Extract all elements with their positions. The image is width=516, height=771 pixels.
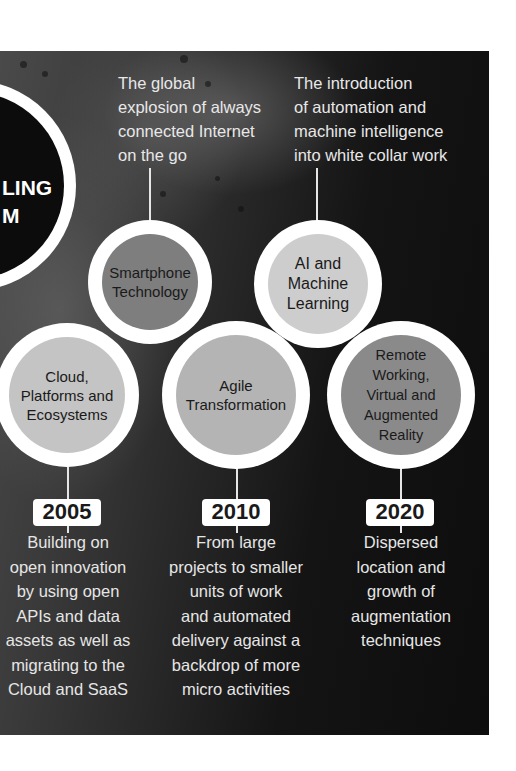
- node-label: Transformation: [186, 395, 286, 414]
- desc-line: by using open: [2, 579, 134, 604]
- node-smartphone: Smartphone Technology: [102, 234, 198, 330]
- texture-dot: [42, 71, 48, 77]
- node-label: Ecosystems: [21, 405, 114, 424]
- desc-line: Building on: [2, 530, 134, 555]
- intro-line: M: [2, 202, 52, 230]
- caption-line: on the go: [118, 143, 261, 167]
- connector-line: [149, 168, 151, 223]
- texture-dot: [20, 61, 27, 68]
- node-remote: Remote Working, Virtual and Augmented Re…: [341, 335, 461, 455]
- caption-ai: The introduction of automation and machi…: [294, 71, 447, 167]
- milestone-desc-2005: Building on open innovation by using ope…: [2, 530, 134, 702]
- node-label: Cloud,: [21, 367, 114, 386]
- node-cloud: Cloud, Platforms and Ecosystems: [9, 337, 125, 453]
- desc-line: units of work: [160, 579, 312, 604]
- caption-line: of automation and: [294, 95, 447, 119]
- intro-circle-text: LING M: [2, 174, 52, 230]
- desc-line: migrating to the: [2, 653, 134, 678]
- node-label: Working,: [364, 365, 438, 385]
- node-label: Technology: [109, 282, 191, 301]
- milestone-desc-2020: Dispersed location and growth of augment…: [336, 530, 466, 653]
- texture-dot: [180, 55, 188, 63]
- intro-line: LING: [2, 174, 52, 202]
- desc-line: delivery against a: [160, 628, 312, 653]
- node-label: Smartphone: [109, 263, 191, 282]
- node-label: Machine: [287, 274, 349, 294]
- desc-line: Dispersed: [336, 530, 466, 555]
- caption-line: connected Internet: [118, 119, 261, 143]
- desc-line: Cloud and SaaS: [2, 677, 134, 702]
- caption-smartphone: The global explosion of always connected…: [118, 71, 261, 167]
- desc-line: From large: [160, 530, 312, 555]
- year-badge-2005: 2005: [33, 499, 101, 526]
- year-badge-2010: 2010: [202, 499, 270, 526]
- texture-dot: [160, 191, 166, 197]
- texture-dot: [215, 176, 220, 181]
- desc-line: projects to smaller: [160, 555, 312, 580]
- desc-line: and automated: [160, 604, 312, 629]
- node-label: Agile: [186, 376, 286, 395]
- caption-line: explosion of always: [118, 95, 261, 119]
- desc-line: micro activities: [160, 677, 312, 702]
- connector-line: [316, 168, 318, 223]
- desc-line: APIs and data: [2, 604, 134, 629]
- desc-line: backdrop of more: [160, 653, 312, 678]
- desc-line: open innovation: [2, 555, 134, 580]
- node-agile: Agile Transformation: [176, 335, 296, 455]
- year-badge-2020: 2020: [366, 499, 434, 526]
- milestone-desc-2010: From large projects to smaller units of …: [160, 530, 312, 702]
- desc-line: assets as well as: [2, 628, 134, 653]
- node-label: AI and: [287, 254, 349, 274]
- node-label: Remote: [364, 345, 438, 365]
- desc-line: location and: [336, 555, 466, 580]
- node-label: Reality: [364, 425, 438, 445]
- texture-dot: [238, 206, 244, 212]
- desc-line: augmentation: [336, 604, 466, 629]
- caption-line: machine intelligence: [294, 119, 447, 143]
- caption-line: The global: [118, 71, 261, 95]
- caption-line: The introduction: [294, 71, 447, 95]
- node-label: Platforms and: [21, 386, 114, 405]
- node-ai: AI and Machine Learning: [268, 234, 368, 334]
- caption-line: into white collar work: [294, 143, 447, 167]
- timeline-panel: LING M The global explosion of always co…: [0, 51, 489, 735]
- desc-line: techniques: [336, 628, 466, 653]
- node-label: Virtual and: [364, 385, 438, 405]
- desc-line: growth of: [336, 579, 466, 604]
- node-label: Learning: [287, 294, 349, 314]
- node-label: Augmented: [364, 405, 438, 425]
